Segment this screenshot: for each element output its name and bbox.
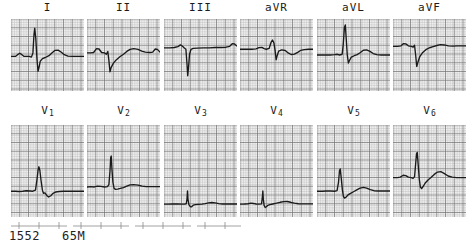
lead-panel-iii <box>164 19 237 91</box>
lead-label-avl: aVL <box>317 2 390 14</box>
lead-label-subscript: 4 <box>278 109 283 118</box>
lead-label-avf: aVF <box>393 2 466 14</box>
lead-label-v5: V5 <box>317 105 390 120</box>
lead-label-text: aVR <box>265 1 288 14</box>
lead-panel-avl <box>317 19 390 91</box>
lead-grid-v3 <box>164 125 237 217</box>
lead-grid-ii <box>87 19 160 91</box>
lead-panel-avr <box>240 19 313 91</box>
lead-panel-v4 <box>240 125 313 217</box>
lead-label-v6: V6 <box>393 105 466 120</box>
lead-label-subscript: 3 <box>202 109 207 118</box>
ecg-page: IIIIIIaVRaVLaVFV1V2V3V4V5V6 1552 65M <box>0 0 471 247</box>
lead-label-text: aVL <box>342 1 365 14</box>
lead-label-text: III <box>189 1 212 14</box>
lead-grid-i <box>11 19 84 91</box>
lead-label-text: V <box>194 104 202 117</box>
lead-grid-v4 <box>240 125 313 217</box>
lead-label-iii: III <box>164 2 237 14</box>
lead-grid-v2 <box>87 125 160 217</box>
lead-grid-iii <box>164 19 237 91</box>
lead-panel-v5 <box>317 125 390 217</box>
lead-grid-avl <box>317 19 390 91</box>
lead-panel-v3 <box>164 125 237 217</box>
footer-patient-label: 65M <box>62 229 85 243</box>
lead-panel-avf <box>393 19 466 91</box>
lead-label-subscript: 1 <box>49 109 54 118</box>
calibration-strip <box>11 220 241 229</box>
lead-grid-v1 <box>11 125 84 217</box>
footer-time-label: 1552 <box>9 229 40 243</box>
lead-label-text: V <box>347 104 355 117</box>
lead-label-i: I <box>11 2 84 14</box>
lead-label-text: aVF <box>418 1 441 14</box>
lead-panel-v2 <box>87 125 160 217</box>
lead-label-text: V <box>270 104 278 117</box>
lead-label-text: V <box>117 104 125 117</box>
lead-label-text: V <box>423 104 431 117</box>
lead-label-subscript: 2 <box>125 109 130 118</box>
lead-grid-v5 <box>317 125 390 217</box>
lead-label-text: II <box>116 1 131 14</box>
lead-panel-v1 <box>11 125 84 217</box>
lead-label-subscript: 5 <box>355 109 360 118</box>
lead-label-subscript: 6 <box>431 109 436 118</box>
lead-label-v2: V2 <box>87 105 160 120</box>
lead-label-avr: aVR <box>240 2 313 14</box>
lead-grid-avr <box>240 19 313 91</box>
lead-label-v3: V3 <box>164 105 237 120</box>
lead-panel-ii <box>87 19 160 91</box>
lead-grid-avf <box>393 19 466 91</box>
lead-label-v1: V1 <box>11 105 84 120</box>
lead-label-text: I <box>44 1 52 14</box>
lead-label-ii: II <box>87 2 160 14</box>
lead-grid-v6 <box>393 125 466 217</box>
lead-panel-v6 <box>393 125 466 217</box>
lead-label-text: V <box>41 104 49 117</box>
lead-label-v4: V4 <box>240 105 313 120</box>
lead-panel-i <box>11 19 84 91</box>
